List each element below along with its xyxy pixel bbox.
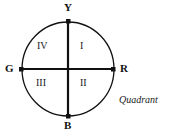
figure-caption: Quadrant [119,95,158,105]
quadrant-label-four: IV [37,41,48,51]
quadrant-label-one: I [80,41,83,51]
axis-label-top-yellow: Y [64,2,72,13]
endpoint-marker-right [111,67,116,72]
axis-label-bottom-blue: B [64,120,71,131]
endpoint-marker-left [19,67,24,72]
quadrant-label-two: II [80,78,87,88]
axis-label-left-green: G [5,63,14,74]
axis-label-right-red: R [120,63,128,74]
quadrant-diagram: Y G R B I II III IV Quadrant [0,0,173,137]
endpoint-marker-bottom [66,114,71,119]
quadrant-label-three: III [36,78,46,88]
quadrant-graphic [0,0,173,137]
endpoint-marker-top [66,19,71,24]
